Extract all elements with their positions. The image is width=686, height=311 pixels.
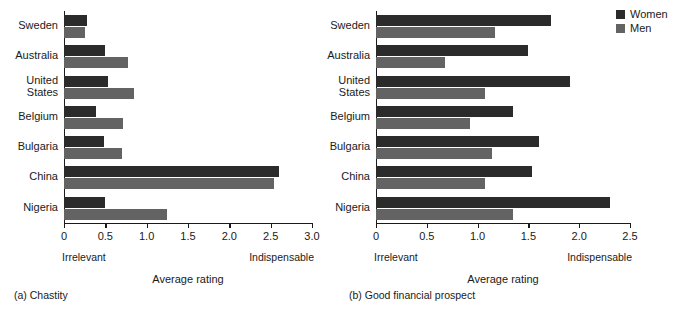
x-axis-low-label: Irrelevant [374, 251, 418, 263]
bar-women [376, 15, 551, 26]
category-label: China [0, 170, 58, 183]
x-tick-label: 0.5 [407, 230, 447, 242]
bar-men [376, 27, 495, 38]
x-tick-label: 1.0 [127, 230, 167, 242]
bar-women [64, 166, 279, 177]
panel-caption: (a) Chastity [14, 289, 68, 301]
legend-item-men: Men [616, 21, 668, 35]
category-label: Sweden [0, 19, 58, 32]
bar-women [376, 166, 532, 177]
x-axis-high-label: Indispensable [567, 251, 632, 263]
bar-women [376, 76, 570, 87]
x-tick-label: 2.0 [559, 230, 599, 242]
bar-women [64, 15, 87, 26]
panel-caption: (b) Good financial prospect [349, 289, 475, 301]
bar-group: China [376, 162, 630, 192]
bar-men [64, 148, 122, 159]
bar-women [376, 136, 539, 147]
bar-group: Australia [376, 41, 630, 71]
x-tick [188, 223, 189, 228]
legend-label-women: Women [630, 9, 668, 20]
category-label: Belgium [250, 110, 370, 123]
panel-good-financial-prospect: SwedenAustraliaUnited StatesBelgiumBulga… [343, 0, 686, 311]
panel-chastity: SwedenAustraliaUnited StatesBelgiumBulga… [0, 0, 343, 311]
x-tick [64, 223, 65, 228]
bar-group: United States [376, 72, 630, 102]
x-axis-title: Average rating [64, 273, 312, 285]
bar-men [64, 57, 128, 68]
bar-women [376, 106, 513, 117]
x-tick [630, 223, 631, 228]
category-label: United States [0, 74, 58, 99]
x-tick [147, 223, 148, 228]
bar-men [376, 178, 485, 189]
plot-area-good-financial-prospect: SwedenAustraliaUnited StatesBelgiumBulga… [376, 11, 630, 223]
x-tick-label: 2.5 [610, 230, 650, 242]
figure-two-panel-bar-charts: SwedenAustraliaUnited StatesBelgiumBulga… [0, 0, 686, 311]
category-label: Belgium [0, 110, 58, 123]
x-tick [528, 223, 529, 228]
x-tick [478, 223, 479, 228]
x-tick-label: 0 [356, 230, 396, 242]
category-label: Australia [0, 49, 58, 62]
bar-men [376, 118, 470, 129]
x-tick [229, 223, 230, 228]
x-tick-label: 0 [44, 230, 84, 242]
bar-women [376, 197, 610, 208]
x-tick [105, 223, 106, 228]
x-tick [271, 223, 272, 228]
bar-men [64, 178, 274, 189]
bar-women [64, 136, 104, 147]
bar-women [64, 45, 105, 56]
x-tick-label: 2.0 [209, 230, 249, 242]
category-label: Sweden [250, 19, 370, 32]
bar-women [64, 197, 105, 208]
legend: WomenMen [616, 7, 668, 35]
bar-men [64, 27, 85, 38]
bar-men [376, 209, 513, 220]
category-label: Bulgaria [250, 140, 370, 153]
legend-swatch-women [616, 10, 625, 19]
x-tick [376, 223, 377, 228]
bar-men [376, 148, 492, 159]
x-tick-label: 1.5 [168, 230, 208, 242]
x-tick-label: 2.5 [251, 230, 291, 242]
bar-men [64, 118, 123, 129]
category-label: China [250, 170, 370, 183]
legend-swatch-men [616, 24, 625, 33]
x-axis-line [376, 223, 630, 224]
bar-men [376, 57, 445, 68]
bar-men [64, 88, 134, 99]
bar-group: Nigeria [376, 193, 630, 223]
x-tick [579, 223, 580, 228]
legend-label-men: Men [630, 23, 651, 34]
x-tick [312, 223, 313, 228]
x-axis-low-label: Irrelevant [62, 251, 106, 263]
x-axis-title: Average rating [376, 273, 630, 285]
bar-men [64, 209, 167, 220]
category-label: Bulgaria [0, 140, 58, 153]
x-tick-label: 1.0 [458, 230, 498, 242]
bar-women [376, 45, 528, 56]
bar-men [376, 88, 485, 99]
x-tick-label: 0.5 [85, 230, 125, 242]
x-axis-high-label: Indispensable [249, 251, 314, 263]
bar-women [64, 76, 108, 87]
category-label: Australia [250, 49, 370, 62]
category-label: Nigeria [0, 201, 58, 214]
x-tick-label: 3.0 [292, 230, 332, 242]
bar-group: Bulgaria [376, 132, 630, 162]
x-tick-label: 1.5 [508, 230, 548, 242]
x-tick [427, 223, 428, 228]
bar-group: Sweden [376, 11, 630, 41]
bar-women [64, 106, 96, 117]
category-label: United States [250, 74, 370, 99]
category-label: Nigeria [250, 201, 370, 214]
bar-group: Belgium [376, 102, 630, 132]
legend-item-women: Women [616, 7, 668, 21]
